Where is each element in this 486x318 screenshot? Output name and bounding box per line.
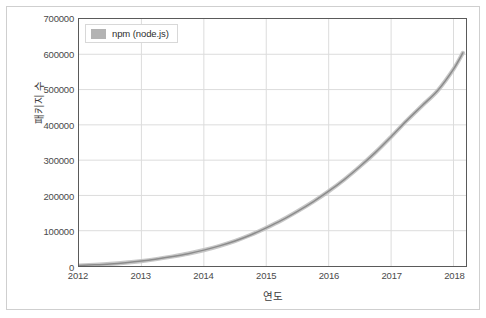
series-line-npm xyxy=(79,19,466,266)
x-axis-tick-label: 2017 xyxy=(382,270,402,281)
chart-figure: 패키지 수 0100000200000300000400000500000600… xyxy=(0,0,486,318)
x-axis-tick-label: 2014 xyxy=(193,270,213,281)
x-axis-tick-label: 2015 xyxy=(256,270,276,281)
legend-label: npm (node.js) xyxy=(112,28,169,39)
y-axis-tick-label: 500000 xyxy=(2,84,74,95)
y-axis-tick-label: 400000 xyxy=(2,119,74,130)
x-axis-tick-label: 2018 xyxy=(444,270,464,281)
x-axis-tick-label: 2013 xyxy=(131,270,151,281)
y-axis-tick-label: 100000 xyxy=(2,226,74,237)
y-axis-tick-label: 200000 xyxy=(2,190,74,201)
legend-swatch-icon xyxy=(91,29,106,39)
y-axis-tick-label: 300000 xyxy=(2,155,74,166)
x-axis-tick-label: 2012 xyxy=(68,270,88,281)
y-axis-tick-label: 0 xyxy=(2,262,74,273)
x-axis-tick-label: 2016 xyxy=(319,270,339,281)
legend: npm (node.js) xyxy=(85,24,178,43)
y-axis-tick-label: 600000 xyxy=(2,48,74,59)
y-axis-tick-label: 700000 xyxy=(2,13,74,24)
y-axis-tick-labels: 0100000200000300000400000500000600000700… xyxy=(0,18,74,267)
plot-area: npm (node.js) xyxy=(78,18,467,267)
x-axis-tick-labels: 2012201320142015201620172018 xyxy=(78,270,467,286)
x-axis-title: 연도 xyxy=(78,288,467,303)
